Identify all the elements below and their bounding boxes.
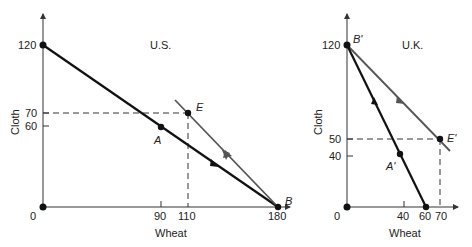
uk-point-origin [344,204,351,211]
us-label-A: A [153,134,161,146]
uk-xtick-label-40: 40 [397,210,409,222]
us-title: U.S. [150,39,171,51]
uk-point-B-prime [344,42,351,49]
us-xtick-label-110: 110 [178,210,196,222]
uk-ytick-label-120: 120 [322,39,340,51]
us-ytick-label-120: 120 [18,39,36,51]
us-label-E: E [196,101,204,113]
uk-arrow-trade-icon [396,96,405,104]
us-xtick-label-180: 180 [268,210,286,222]
uk-x-axis-label: Wheat [389,227,421,239]
us-origin-label: 0 [30,210,36,222]
trade-diagrams: U.S. 120 70 60 0 90 110 180 Wheat Cloth … [0,0,472,247]
us-label-B: B [285,195,292,207]
us-point-E [185,110,191,116]
us-x-axis-label: Wheat [155,227,187,239]
uk-point-E-prime [437,136,443,142]
us-arrow-trade-head-icon [222,150,230,160]
us-point-120 [40,42,47,49]
uk-xtick-label-60: 60 [419,210,431,222]
us-panel: U.S. 120 70 60 0 90 110 180 Wheat Cloth … [9,14,292,239]
us-arrow-frontier-icon [210,159,219,167]
us-point-A [158,124,164,130]
uk-y-axis-label: Cloth [312,109,324,135]
us-point-origin [40,204,47,211]
us-xtick-label-90: 90 [154,210,166,222]
uk-ytick-label-40: 40 [329,150,341,162]
uk-ytick-label-50: 50 [329,133,341,145]
uk-label-E-prime: E' [447,132,457,144]
uk-production-frontier [347,45,426,207]
us-ytick-label-60: 60 [25,120,37,132]
us-y-axis-label: Cloth [9,109,21,135]
uk-label-B-prime: B' [353,33,363,45]
uk-title: U.K. [402,39,423,51]
us-ytick-label-70: 70 [25,107,37,119]
uk-panel: U.K. 120 50 40 0 40 60 70 Wheat Cloth A'… [312,14,458,239]
uk-origin-label: 0 [334,210,340,222]
uk-point-A-prime [397,151,403,157]
uk-xtick-label-70: 70 [435,210,447,222]
uk-label-A-prime: A' [385,160,396,172]
